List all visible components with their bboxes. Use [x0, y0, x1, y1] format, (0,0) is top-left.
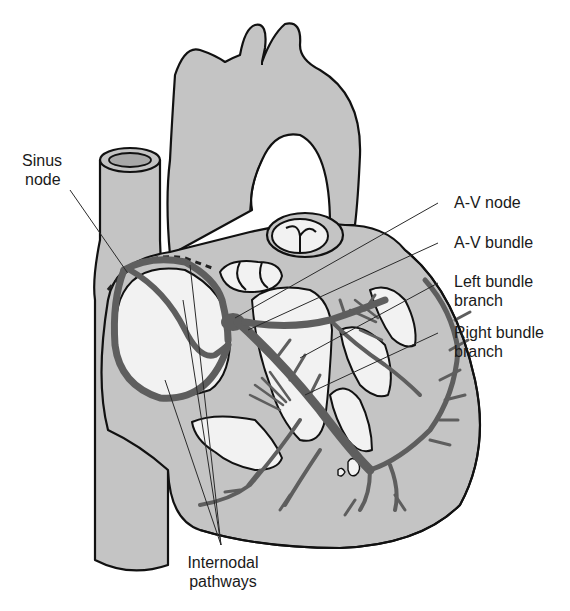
heart-conduction-diagram: Sinus node A-V node A-V bundle Left bund…	[0, 0, 570, 611]
label-left-bundle-branch: Left bundle branch	[454, 272, 533, 310]
label-internodal-pathways: Internodal pathways	[180, 553, 266, 591]
label-sinus-node: Sinus node	[22, 151, 62, 189]
tricuspid-valve	[220, 261, 282, 292]
label-right-bundle-branch: Right bundle branch	[454, 323, 544, 361]
label-av-node: A-V node	[454, 193, 521, 212]
semilunar-valve	[267, 213, 343, 257]
label-av-bundle: A-V bundle	[454, 233, 533, 252]
